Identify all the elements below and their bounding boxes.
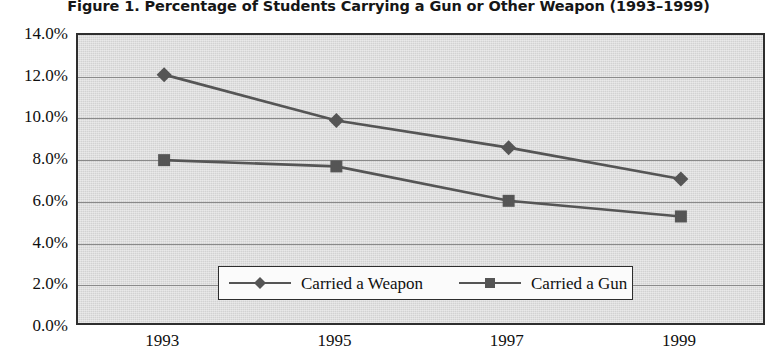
- data-point-square: [503, 195, 515, 207]
- legend-label-carried-a-gun: Carried a Gun: [531, 275, 627, 292]
- legend-entry-carried-a-gun: Carried a Gun: [459, 275, 627, 292]
- data-point-diamond: [329, 113, 344, 128]
- legend-label-carried-a-weapon: Carried a Weapon: [301, 275, 423, 292]
- data-point-square: [158, 154, 170, 166]
- y-axis-tick-label: 14.0%: [0, 25, 68, 42]
- chart-title: Figure 1. Percentage of Students Carryin…: [0, 0, 777, 14]
- diamond-marker-icon: [229, 275, 291, 291]
- y-axis-tick-label: 2.0%: [0, 275, 68, 292]
- y-axis-tick-label: 6.0%: [0, 192, 68, 209]
- x-axis-tick-label: 1993: [122, 331, 202, 350]
- figure-container: Figure 1. Percentage of Students Carryin…: [0, 0, 777, 357]
- series-line-2: [164, 160, 681, 216]
- data-point-diamond: [501, 140, 516, 155]
- y-axis-tick-label: 10.0%: [0, 108, 68, 125]
- chart-legend: Carried a Weapon Carried a Gun: [218, 266, 633, 300]
- data-point-diamond: [157, 67, 172, 82]
- y-axis-tick-label: 8.0%: [0, 150, 68, 167]
- data-point-square: [675, 210, 687, 222]
- y-axis-tick-label: 4.0%: [0, 234, 68, 251]
- x-axis-tick-label: 1997: [467, 331, 547, 350]
- y-axis-tick-label: 0.0%: [0, 317, 68, 334]
- square-marker-icon: [459, 275, 521, 291]
- x-axis-tick-label: 1995: [294, 331, 374, 350]
- data-point-diamond: [673, 171, 688, 186]
- legend-entry-carried-a-weapon: Carried a Weapon: [229, 275, 423, 292]
- data-point-square: [330, 160, 342, 172]
- x-axis-tick-label: 1999: [639, 331, 719, 350]
- y-axis-tick-label: 12.0%: [0, 67, 68, 84]
